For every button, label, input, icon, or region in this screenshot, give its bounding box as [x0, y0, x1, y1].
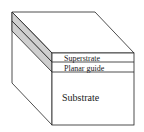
superstrate-label: Superstrate	[64, 54, 100, 63]
planar-guide-label: Planar guide	[64, 64, 105, 73]
substrate-label: Substrate	[62, 92, 100, 103]
waveguide-diagram: Superstrate Planar guide Substrate	[0, 0, 144, 132]
